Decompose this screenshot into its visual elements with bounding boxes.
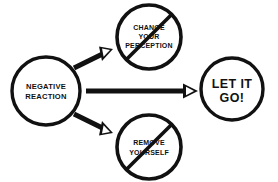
node-label-line-2: YOURSELF [129,149,169,156]
arrow-shaft [74,114,104,129]
node-label-line-2: REACTION [25,92,66,101]
node-negative-reaction[interactable]: NEGATIVE REACTION [12,57,80,125]
node-let-it-go[interactable]: LET IT GO! [201,58,263,120]
flowchart-graphic: NEGATIVE REACTION CHANGE YOUR PERCEPTION… [0,0,278,182]
node-label-line-3: PERCEPTION [125,42,173,49]
arrow-to-change-perception [74,47,113,69]
node-label-line-2: GO! [220,91,245,105]
node-remove-yourself[interactable]: REMOVE YOURSELF [117,115,181,179]
node-change-your-perception[interactable]: CHANGE YOUR PERCEPTION [117,5,181,69]
arrow-to-let-it-go [86,84,198,99]
node-label-line-1: NEGATIVE [26,82,66,91]
diagram-canvas: NEGATIVE REACTION CHANGE YOUR PERCEPTION… [0,0,278,182]
node-label-line-1: LET IT [212,77,253,91]
arrow-to-remove-yourself [74,114,113,136]
arrow-shaft [74,54,104,69]
